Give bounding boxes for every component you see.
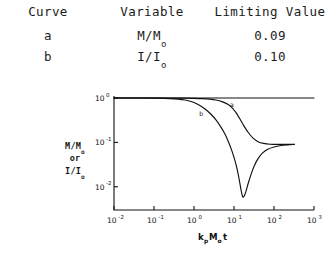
figure-loglog-plot: M/Mo or I/Io 10-210-110010110210310010-1… (0, 88, 332, 265)
table-row: b I/Io 0.10 (0, 51, 332, 64)
column-header-variable: Variable (96, 6, 208, 19)
summary-table: Curve Variable Limiting Value a M/Mo 0.0… (0, 6, 332, 73)
svg-text:-1: -1 (159, 214, 164, 220)
svg-text:10: 10 (227, 216, 237, 225)
svg-text:0: 0 (199, 214, 203, 220)
column-header-curve: Curve (0, 6, 96, 19)
table-row: a M/Mo 0.09 (0, 30, 332, 43)
svg-text:10: 10 (107, 216, 117, 225)
y-tick-label: 10-1 (95, 136, 111, 148)
x-tick-label: 10-1 (147, 214, 164, 226)
curve-b (114, 98, 294, 197)
plot-svg: 10-210-110010110210310010-110-2abkpMot (0, 88, 332, 265)
variable-numerator: I/I (137, 49, 161, 64)
table-header-row: Curve Variable Limiting Value (0, 6, 332, 19)
column-header-limiting-value: Limiting Value (208, 6, 332, 19)
svg-text:t: t (223, 232, 227, 242)
x-tick-label: 102 (267, 214, 282, 226)
svg-text:10: 10 (147, 216, 157, 225)
svg-text:-2: -2 (119, 214, 124, 220)
x-tick-label: 103 (307, 214, 322, 226)
svg-text:o: o (218, 237, 222, 244)
svg-text:1: 1 (239, 214, 242, 220)
x-tick-label: 100 (187, 214, 203, 226)
svg-text:10: 10 (267, 216, 277, 225)
svg-text:10: 10 (95, 94, 105, 103)
svg-text:10: 10 (307, 216, 317, 225)
svg-text:-2: -2 (106, 180, 111, 186)
svg-text:0: 0 (106, 92, 110, 98)
svg-text:-1: -1 (106, 136, 111, 142)
svg-text:10: 10 (95, 183, 105, 192)
svg-text:M: M (209, 232, 218, 242)
curve-label-a: a (230, 101, 234, 108)
curve-label-b: b (199, 110, 203, 117)
svg-text:3: 3 (319, 214, 322, 220)
y-tick-label: 10-2 (95, 180, 111, 192)
cell-variable: I/Io (96, 51, 208, 64)
plot-axes (114, 96, 314, 210)
cell-limiting-value: 0.10 (208, 51, 332, 64)
x-tick-label: 10-2 (107, 214, 124, 226)
svg-text:2: 2 (279, 214, 282, 220)
cell-variable: M/Mo (96, 30, 208, 43)
y-tick-label: 100 (95, 92, 110, 104)
svg-text:10: 10 (187, 216, 197, 225)
cell-limiting-value: 0.09 (208, 30, 332, 43)
variable-subscript: o (161, 39, 167, 49)
x-axis-title: kpMot (198, 232, 227, 245)
cell-curve: a (0, 30, 96, 43)
x-tick-label: 101 (227, 214, 242, 226)
svg-text:10: 10 (95, 138, 105, 147)
variable-subscript: o (161, 60, 167, 70)
variable-numerator: M/M (137, 28, 161, 43)
curve-a (114, 98, 294, 144)
cell-curve: b (0, 51, 96, 64)
